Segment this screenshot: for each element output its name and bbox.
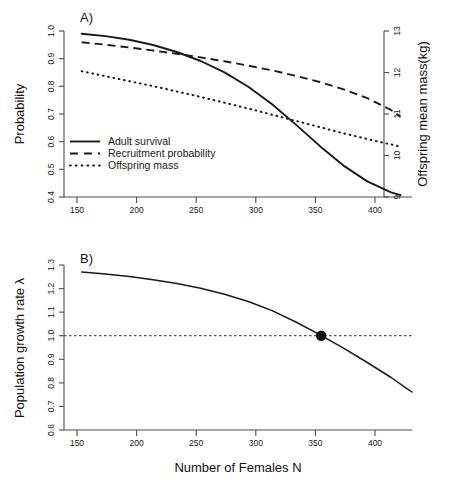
panel-a-ytick-1: 0.5	[46, 163, 56, 175]
panel-a-left-ticks: 1.0 0.9 0.8 0.7 0.6 0.5 0.4	[46, 25, 64, 203]
panel-a-rtick-1: 10	[392, 151, 402, 161]
panel-b-xlabel: Number of Females N	[174, 460, 301, 475]
panel-a-ytick-3: 0.7	[46, 108, 56, 120]
panel-b-ytick-6: 1.2	[46, 282, 56, 294]
panel-b-xtick-0: 150	[70, 438, 84, 448]
panel-a-right-ticks: 13 12 11 10 9	[384, 26, 402, 199]
curve-recruitment-probability	[82, 42, 401, 117]
panel-b-xtick-3: 300	[249, 438, 263, 448]
panel-a-xtick-3: 300	[249, 205, 263, 215]
panel-a-legend: Adult survival Recruitment probability O…	[70, 135, 216, 171]
panel-b-xtick-1: 200	[130, 438, 144, 448]
legend-label-adult-survival: Adult survival	[108, 135, 170, 147]
panel-b-ytick-0: 0.6	[46, 424, 56, 436]
figure-svg: 1.0 0.9 0.8 0.7 0.6 0.5 0.4 13 12 11 10 …	[0, 0, 451, 489]
legend-label-recruitment-probability: Recruitment probability	[108, 147, 216, 159]
equilibrium-point-marker	[316, 331, 326, 341]
panel-b-y-ticks: 1.3 1.2 1.1 1.0 0.9 0.8 0.7 0.6	[46, 259, 64, 436]
panel-b-x-ticks: 150 200 250 300 350 400	[70, 430, 382, 448]
panel-a-xtick-5: 400	[368, 205, 382, 215]
panel-b-ytick-5: 1.1	[46, 306, 56, 318]
panel-a-ytick-0: 0.4	[46, 191, 56, 203]
panel-a-xtick-4: 350	[308, 205, 322, 215]
panel-b-label: B)	[80, 251, 93, 266]
panel-a: 1.0 0.9 0.8 0.7 0.6 0.5 0.4 13 12 11 10 …	[12, 10, 430, 215]
panel-a-ylabel-right: Offspring mean mass(kg)	[415, 41, 430, 187]
panel-a-ytick-5: 0.9	[46, 53, 56, 65]
panel-b-ytick-4: 1.0	[46, 330, 56, 342]
panel-a-x-ticks: 150 200 250 300 350 400	[70, 197, 382, 215]
panel-a-xtick-1: 200	[130, 205, 144, 215]
panel-b-xtick-5: 400	[368, 438, 382, 448]
legend-label-offspring-mass: Offspring mass	[108, 159, 178, 171]
panel-a-xtick-0: 150	[70, 205, 84, 215]
panel-b-ylabel: Population growth rate λ	[12, 277, 27, 418]
panel-a-xtick-2: 250	[189, 205, 203, 215]
figure-root: 1.0 0.9 0.8 0.7 0.6 0.5 0.4 13 12 11 10 …	[0, 0, 451, 489]
panel-a-rtick-3: 12	[392, 68, 402, 78]
panel-b-ytick-1: 0.7	[46, 400, 56, 412]
panel-b: 1.3 1.2 1.1 1.0 0.9 0.8 0.7 0.6 150 200 …	[12, 251, 412, 475]
panel-a-ylabel-left: Probability	[12, 83, 27, 144]
panel-a-label: A)	[80, 10, 93, 25]
panel-b-ytick-2: 0.8	[46, 377, 56, 389]
panel-a-rtick-4: 13	[392, 26, 402, 36]
panel-b-ytick-3: 0.9	[46, 353, 56, 365]
curve-population-growth-rate	[82, 272, 412, 392]
panel-b-xtick-2: 250	[189, 438, 203, 448]
panel-a-ytick-2: 0.6	[46, 136, 56, 148]
panel-b-xtick-4: 350	[308, 438, 322, 448]
panel-a-ytick-6: 1.0	[46, 25, 56, 37]
panel-b-ytick-7: 1.3	[46, 259, 56, 271]
panel-a-ytick-4: 0.8	[46, 80, 56, 92]
